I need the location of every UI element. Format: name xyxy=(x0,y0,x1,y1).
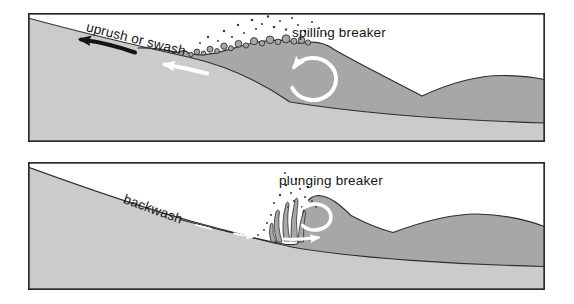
bed-return-arrow xyxy=(284,238,318,240)
plunging-breaker-drawing: backwash plunging breaker xyxy=(28,162,545,290)
spilling-breaker-panel: uprush or swash spilling breaker xyxy=(28,13,545,142)
plunging-breaker-panel: backwash plunging breaker xyxy=(28,162,545,290)
spilling-breaker-label: spilling breaker xyxy=(292,25,386,40)
plunge-splash-jets xyxy=(269,198,305,242)
plunging-breaker-label: plunging breaker xyxy=(279,173,383,188)
spilling-breaker-drawing: uprush or swash spilling breaker xyxy=(28,13,545,142)
